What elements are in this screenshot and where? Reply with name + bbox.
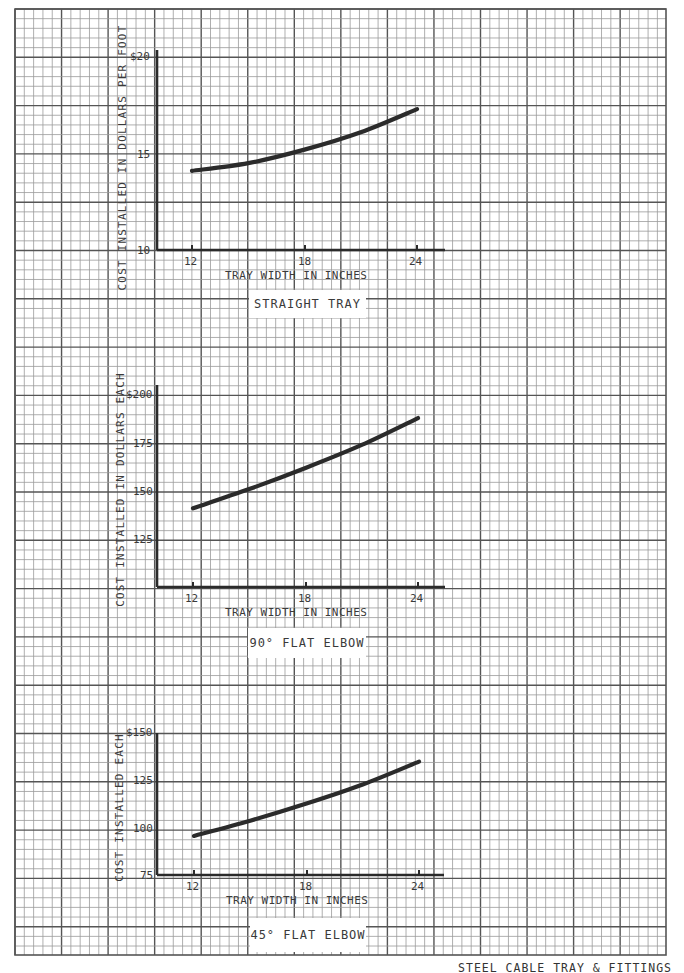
chart-title-box: STRAIGHT TRAY	[249, 290, 366, 318]
y-tick-label: $150	[126, 727, 153, 738]
chart-title-box: 90° FLAT ELBOW	[248, 628, 366, 658]
x-tick-label: 24	[411, 881, 424, 892]
x-axis-label: TRAY WIDTH IN INCHES	[225, 270, 367, 281]
x-tick-label: 12	[186, 881, 199, 892]
chart-plots	[0, 0, 684, 973]
chart-title-box: 45° FLAT ELBOW	[250, 918, 366, 952]
y-tick-label: 15	[137, 149, 150, 160]
y-tick-label: 175	[133, 438, 153, 449]
x-tick-label: 18	[299, 881, 312, 892]
y-axis-label: COST INSTALLED IN DOLLARS PER FOOT	[117, 8, 128, 308]
y-tick-label: 125	[133, 775, 153, 786]
x-axis-label: TRAY WIDTH IN INCHES	[225, 607, 367, 618]
x-tick-label: 18	[298, 256, 311, 267]
x-tick-label: 12	[185, 593, 198, 604]
y-tick-label: 150	[133, 486, 153, 497]
x-axis-label: TRAY WIDTH IN INCHES	[226, 895, 368, 906]
y-axis-label: COST INSTALLED EACH	[114, 658, 125, 958]
y-tick-label: $200	[126, 389, 153, 400]
x-tick-label: 12	[184, 256, 197, 267]
y-tick-label: 75	[140, 870, 153, 881]
cost-curve	[194, 762, 419, 836]
y-tick-label: 100	[133, 823, 153, 834]
y-tick-label: 10	[137, 245, 150, 256]
x-tick-label: 24	[409, 256, 422, 267]
graph-paper-sheet: COST INSTALLED IN DOLLARS PER FOOT $20 1…	[0, 0, 684, 973]
y-tick-label: 125	[133, 534, 153, 545]
page-caption: STEEL CABLE TRAY & FITTINGS	[458, 961, 672, 973]
cost-curve	[193, 418, 418, 508]
y-tick-label: $20	[130, 51, 150, 62]
x-tick-label: 18	[298, 593, 311, 604]
y-axis-label: COST INSTALLED IN DOLLARS EACH	[115, 340, 126, 640]
x-tick-label: 24	[410, 593, 423, 604]
cost-curve	[192, 109, 417, 171]
